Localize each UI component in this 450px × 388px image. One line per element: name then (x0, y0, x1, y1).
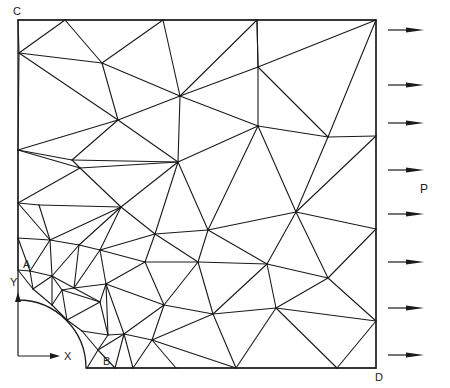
plate-boundary (18, 20, 376, 368)
mesh-edge (152, 305, 164, 340)
mesh-edge (39, 205, 121, 207)
mesh-edge (74, 284, 106, 288)
mesh-edge (276, 308, 376, 321)
mesh-edge (50, 240, 52, 276)
mesh-edge (67, 302, 100, 320)
mesh-edge (124, 334, 152, 340)
load-arrow-icon (406, 168, 424, 173)
mesh-edge (328, 229, 376, 278)
mesh-edge (82, 331, 108, 335)
mesh-edge (98, 335, 108, 350)
mesh-edge (50, 207, 121, 240)
mesh-edge (18, 120, 118, 150)
mesh-edge (213, 264, 267, 314)
mesh-edge (30, 271, 52, 276)
axis-y-label: Y (10, 276, 18, 288)
mesh-edge (180, 67, 258, 96)
mesh-edge (50, 240, 79, 245)
mesh-edge (102, 20, 163, 63)
mesh-edge (198, 262, 213, 314)
mesh-edge (18, 238, 50, 240)
mesh-edge (100, 250, 145, 262)
mesh-edge (267, 212, 296, 264)
mesh-edge (72, 160, 178, 162)
mesh-edge (72, 120, 118, 160)
mesh-edge (79, 245, 100, 250)
mesh-edge (124, 334, 133, 368)
mesh-edge (208, 230, 267, 264)
mesh-edge (106, 284, 124, 334)
mesh-edge (87, 350, 98, 368)
mesh-edge (164, 305, 213, 314)
mesh-edges (18, 20, 376, 368)
mesh-edge (328, 136, 376, 137)
mesh-edge (65, 20, 102, 63)
corner-c-label: C (13, 5, 21, 17)
mesh-edge (337, 321, 376, 368)
mesh-edge (100, 234, 155, 250)
mesh-edge (106, 284, 164, 305)
mesh-edge (100, 284, 106, 302)
mesh-edge (80, 162, 178, 168)
mesh-edge (133, 340, 152, 368)
mesh-edge (121, 162, 178, 207)
mesh-edge (258, 20, 376, 67)
load-arrow-icon (406, 260, 424, 265)
mesh-edge (276, 278, 328, 308)
y-axis-arrowhead-icon (15, 292, 21, 302)
mesh-edge (39, 205, 50, 240)
mesh-edge (163, 20, 180, 96)
mesh-edge (296, 212, 376, 229)
mesh-edge (145, 234, 155, 262)
mesh-edge (296, 137, 328, 212)
mesh-edge (178, 162, 208, 230)
mesh-edge (100, 250, 106, 284)
mesh-edge (124, 305, 164, 334)
mesh-edge (80, 168, 121, 207)
mesh-edge (106, 262, 145, 284)
mesh-edge (79, 207, 121, 245)
axis-x-label: X (64, 350, 72, 362)
load-arrow-icon (406, 212, 424, 217)
mesh-edge (30, 240, 50, 271)
corner-d-label: D (375, 371, 383, 383)
load-arrow-icon (406, 353, 424, 358)
mesh-edge (33, 276, 52, 289)
mesh-edge (276, 308, 337, 368)
mesh-edge (236, 308, 276, 368)
mesh-edge (18, 168, 80, 203)
mesh-edge (155, 234, 198, 262)
mesh-edge (152, 314, 213, 340)
mesh-edge (198, 230, 208, 262)
mesh-edge (258, 126, 296, 212)
mesh-edge (100, 207, 121, 250)
mesh-edge (118, 96, 180, 120)
mesh-edge (52, 245, 79, 276)
mesh-edge (155, 230, 208, 234)
mesh-edge (180, 20, 257, 96)
mesh-edge (164, 262, 198, 305)
mesh-edge (258, 67, 328, 137)
mesh-edge (198, 262, 267, 264)
mesh-edge (18, 270, 30, 271)
mesh-edge (180, 96, 258, 126)
mesh-edge (328, 20, 376, 137)
mesh-edge (328, 278, 376, 321)
mesh-edge (257, 20, 258, 67)
mesh-edge (213, 314, 236, 368)
mesh-edge (102, 63, 180, 96)
point-a-label: A (23, 258, 31, 270)
mesh-edge (121, 207, 155, 234)
fem-mesh-diagram: Y X C D A B P (0, 0, 450, 388)
load-arrow-icon (406, 83, 424, 88)
mesh-edge (213, 308, 276, 314)
mesh-edge (118, 120, 178, 162)
mesh-edge (52, 276, 74, 288)
mesh-edge (82, 331, 98, 350)
mesh-edge (155, 162, 178, 234)
mesh-edge (18, 203, 39, 205)
mesh-edge (178, 126, 258, 162)
load-arrow-icon (406, 121, 424, 126)
mesh-edge (178, 96, 180, 162)
mesh-edge (258, 126, 328, 137)
